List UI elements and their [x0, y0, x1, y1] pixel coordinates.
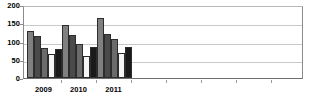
x-axis-tick-mark: [236, 80, 237, 83]
bar-chart: 050100150200 200920102011: [0, 0, 335, 99]
bar: [83, 56, 90, 78]
bar: [48, 54, 55, 78]
bar: [62, 25, 69, 78]
bar-group: [97, 7, 133, 78]
bar: [76, 44, 83, 78]
bars-layer: [24, 7, 302, 78]
bar: [34, 36, 41, 78]
x-axis-category-label: 2009: [35, 85, 52, 94]
bar-group: [27, 7, 63, 78]
y-axis-tick-mark: [19, 79, 23, 80]
x-axis-category-label: 2011: [105, 85, 122, 94]
x-axis-tick-mark: [201, 80, 202, 83]
x-axis-tick-mark: [166, 80, 167, 83]
plot-area: [23, 6, 303, 79]
bar: [111, 39, 118, 78]
bar: [104, 34, 111, 78]
bar: [27, 31, 34, 78]
x-axis-tick-mark: [271, 80, 272, 83]
x-axis-tick-mark: [131, 80, 132, 83]
bar: [125, 47, 132, 78]
bar: [97, 18, 104, 78]
bar-group: [62, 7, 98, 78]
y-axis: 050100150200: [0, 0, 22, 99]
x-axis-tick-mark: [61, 80, 62, 83]
x-axis-tick-mark: [96, 80, 97, 83]
x-axis-category-label: 2010: [70, 85, 87, 94]
bar: [118, 53, 125, 78]
bar: [41, 48, 48, 78]
bar: [69, 35, 76, 78]
